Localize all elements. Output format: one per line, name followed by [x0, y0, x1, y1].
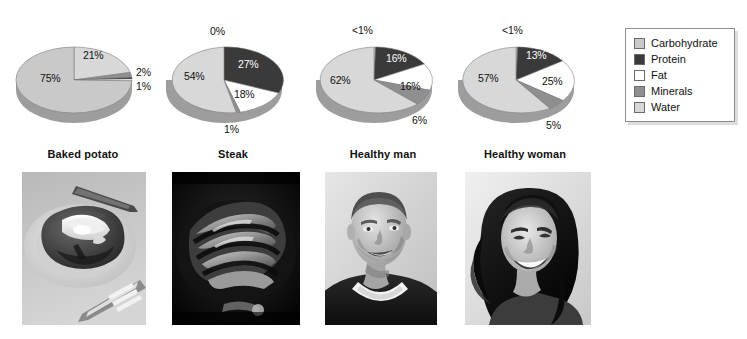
legend-swatch-water — [634, 102, 645, 113]
photo-baked-potato — [22, 172, 146, 325]
pie-svg-healthy-woman — [450, 22, 600, 140]
legend-swatch-fat — [634, 70, 645, 81]
panel-caption-baked-potato: Baked potato — [8, 148, 158, 160]
photo-steak — [172, 172, 300, 325]
photo-healthy-man — [325, 172, 437, 325]
chart-legend: Carbohydrate Protein Fat Minerals Water — [625, 28, 735, 122]
photo-healthy-woman — [465, 172, 591, 325]
pie-value-carbohydrate: <1% — [352, 24, 373, 36]
pie-chart-healthy-man: <1% 16% 16% 6% 62% — [308, 22, 458, 140]
legend-swatch-minerals — [634, 86, 645, 97]
nutrition-composition-figure: 75% 21% 2% 1% Baked potato — [0, 0, 747, 339]
panel-caption-steak: Steak — [158, 148, 308, 160]
legend-item-carbohydrate[interactable]: Carbohydrate — [634, 35, 727, 51]
pie-value-protein: 27% — [238, 58, 258, 70]
pie-value-water: 57% — [478, 72, 498, 84]
legend-label-protein: Protein — [651, 54, 686, 65]
pie-value-carbohydrate: 75% — [40, 72, 60, 84]
pie-value-water: 54% — [184, 70, 204, 82]
photo-healthy-man-image — [325, 172, 437, 325]
photo-baked-potato-image — [22, 172, 146, 325]
pie-value-water: 21% — [83, 49, 103, 61]
panel-caption-healthy-woman: Healthy woman — [450, 148, 600, 160]
legend-item-water[interactable]: Water — [634, 99, 727, 115]
legend-label-water: Water — [651, 102, 680, 113]
pie-value-protein: 16% — [386, 52, 406, 64]
photo-steak-image — [172, 172, 300, 325]
panel-caption-healthy-man: Healthy man — [308, 148, 458, 160]
legend-label-minerals: Minerals — [651, 86, 693, 97]
pie-value-fat: 16% — [400, 80, 420, 92]
pie-chart-steak: 0% 27% 18% 1% 54% — [158, 22, 308, 140]
legend-item-protein[interactable]: Protein — [634, 51, 727, 67]
pie-value-minerals: 1% — [224, 123, 239, 135]
pie-value-protein: 13% — [526, 49, 546, 61]
pie-value-minerals: 2% — [136, 66, 151, 78]
pie-value-water: 62% — [330, 74, 350, 86]
legend-swatch-carbohydrate — [634, 38, 645, 49]
legend-item-minerals[interactable]: Minerals — [634, 83, 727, 99]
pie-value-carbohydrate: 0% — [210, 25, 225, 37]
photo-healthy-woman-image — [465, 172, 591, 325]
pie-value-minerals: 5% — [546, 119, 561, 131]
pie-value-carbohydrate: <1% — [502, 24, 523, 36]
legend-label-fat: Fat — [651, 70, 667, 81]
legend-swatch-protein — [634, 54, 645, 65]
legend-item-fat[interactable]: Fat — [634, 67, 727, 83]
pie-value-fat: 25% — [542, 75, 562, 87]
pie-chart-baked-potato: 75% 21% 2% 1% — [8, 22, 158, 140]
pie-value-fat: 18% — [234, 88, 254, 100]
pie-value-protein: 1% — [136, 80, 151, 92]
legend-label-carbohydrate: Carbohydrate — [651, 38, 718, 49]
pie-chart-healthy-woman: <1% 13% 25% 5% 57% — [450, 22, 600, 140]
pie-value-minerals: 6% — [412, 114, 427, 126]
